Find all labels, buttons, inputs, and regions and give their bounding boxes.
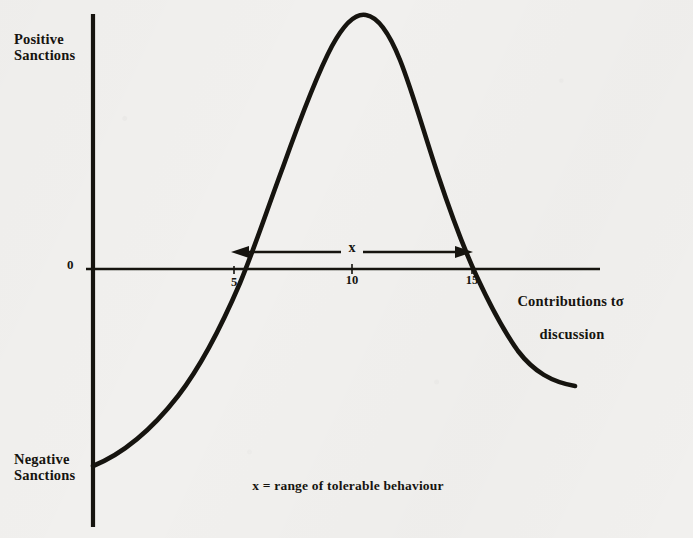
x-tick-label-5: 5 [231,275,237,290]
y-axis-positive-label: Positive Sanctions [14,31,75,63]
range-arrow-left-head [231,246,249,258]
chart-figure: Positive Sanctions Negative Sanctions 0 … [0,0,693,538]
x-tick-label-10: 10 [346,273,359,288]
range-marker-label: x [349,240,356,256]
chart-canvas [0,0,693,538]
sanctions-curve [93,15,575,466]
figure-caption: x = range of tolerable behaviour [252,478,443,493]
x-axis-title-line1: Contributions tσ [517,293,624,309]
y-axis-negative-label: Negative Sanctions [14,451,75,483]
x-axis-title: Contributions tσ discussion [502,277,624,374]
x-tick-label-15: 15 [466,273,479,288]
y-axis-origin-label: 0 [67,258,74,273]
x-axis-title-line2: discussion [502,326,624,342]
